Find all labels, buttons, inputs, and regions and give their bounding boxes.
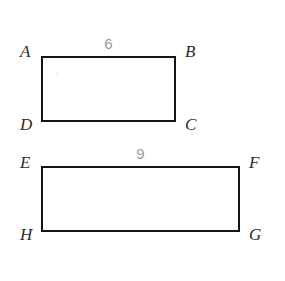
artifact-speck — [56, 72, 59, 75]
vertex-label-a: A — [20, 43, 30, 60]
vertex-label-h: H — [20, 226, 32, 243]
rectangle-abcd — [41, 56, 176, 122]
diagram-canvas: A B C D 6 E F G H 9 — [0, 0, 285, 281]
vertex-label-f: F — [249, 154, 259, 171]
rectangle-efgh — [41, 166, 240, 232]
vertex-label-b: B — [185, 43, 195, 60]
vertex-label-d: D — [20, 116, 32, 133]
vertex-label-c: C — [185, 116, 196, 133]
vertex-label-e: E — [20, 154, 30, 171]
side-length-label-ef: 9 — [41, 146, 240, 161]
side-length-label-ab: 6 — [41, 36, 176, 51]
vertex-label-g: G — [249, 226, 261, 243]
